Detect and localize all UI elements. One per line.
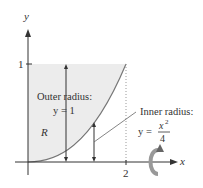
inner-title: Inner radius: [140, 106, 193, 117]
region-label: R [40, 126, 48, 138]
svg-text:4: 4 [160, 133, 165, 144]
region-R [28, 64, 126, 162]
diagram: y x 1 2 R Outer radius: y = 1 Inner radi… [0, 0, 203, 188]
svg-text:2: 2 [165, 118, 169, 126]
diagram-svg: y x 1 2 R Outer radius: y = 1 Inner radi… [0, 0, 203, 188]
x-tick: 2 [123, 167, 129, 179]
y-label: y [23, 10, 29, 22]
outer-eq: y = 1 [53, 105, 75, 116]
x-arrow-icon [170, 159, 178, 165]
inner-eq: y = [138, 126, 152, 137]
y-tick: 1 [18, 58, 24, 70]
outer-title: Outer radius: [37, 91, 92, 102]
y-arrow-icon [25, 29, 31, 37]
svg-text:x: x [158, 120, 164, 131]
x-label: x [179, 155, 185, 167]
